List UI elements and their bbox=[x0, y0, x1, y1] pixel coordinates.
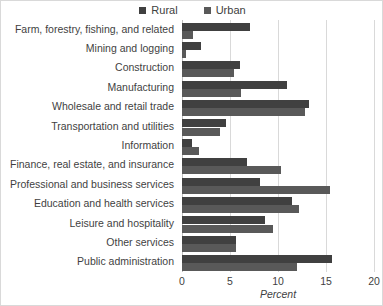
bar-rural[interactable] bbox=[182, 197, 292, 205]
legend-swatch-icon bbox=[204, 7, 211, 14]
category-label: Mining and logging bbox=[86, 43, 174, 54]
x-tick-label: 20 bbox=[368, 275, 380, 287]
category-label: Construction bbox=[115, 62, 174, 73]
x-tick-label: 5 bbox=[227, 275, 233, 287]
bar-urban[interactable] bbox=[182, 205, 299, 213]
bar-urban[interactable] bbox=[182, 69, 234, 77]
chart-legend: RuralUrban bbox=[1, 2, 383, 19]
x-tick-label: 0 bbox=[179, 275, 185, 287]
bar-urban[interactable] bbox=[182, 244, 236, 252]
category-label: Other services bbox=[106, 237, 174, 248]
bar-rural[interactable] bbox=[182, 178, 260, 186]
x-tick-label: 10 bbox=[272, 275, 284, 287]
category-label: Professional and business services bbox=[10, 179, 174, 190]
category-label: Public administration bbox=[77, 256, 174, 267]
bar-series-container bbox=[182, 20, 374, 272]
legend-item-rural[interactable]: Rural bbox=[139, 5, 177, 16]
bar-group bbox=[182, 214, 374, 233]
bar-rural[interactable] bbox=[182, 81, 287, 89]
category-axis-labels: Farm, forestry, fishing, and relatedMini… bbox=[1, 20, 178, 272]
bar-group bbox=[182, 175, 374, 194]
bar-urban[interactable] bbox=[182, 31, 193, 39]
category-label: Education and health services bbox=[34, 198, 174, 209]
bar-rural[interactable] bbox=[182, 119, 226, 127]
bar-urban[interactable] bbox=[182, 225, 273, 233]
bar-urban[interactable] bbox=[182, 186, 330, 194]
bar-group bbox=[182, 59, 374, 78]
category-label: Information bbox=[121, 140, 174, 151]
category-label: Manufacturing bbox=[107, 82, 174, 93]
bar-rural[interactable] bbox=[182, 255, 332, 263]
category-label: Finance, real estate, and insurance bbox=[10, 159, 174, 170]
bar-group bbox=[182, 39, 374, 58]
category-label: Leisure and hospitality bbox=[70, 218, 174, 229]
x-tick-label: 15 bbox=[320, 275, 332, 287]
bar-urban[interactable] bbox=[182, 166, 281, 174]
x-axis-title: Percent bbox=[182, 288, 374, 300]
bar-group bbox=[182, 156, 374, 175]
bar-urban[interactable] bbox=[182, 50, 186, 58]
legend-item-label: Urban bbox=[216, 5, 246, 16]
legend-swatch-icon bbox=[139, 7, 146, 14]
bar-rural[interactable] bbox=[182, 23, 250, 31]
legend-item-urban[interactable]: Urban bbox=[204, 5, 246, 16]
bar-rural[interactable] bbox=[182, 100, 309, 108]
bar-group bbox=[182, 194, 374, 213]
bar-chart: RuralUrban Farm, forestry, fishing, and … bbox=[0, 0, 383, 306]
category-label: Wholesale and retail trade bbox=[52, 101, 174, 112]
bar-rural[interactable] bbox=[182, 216, 265, 224]
bar-urban[interactable] bbox=[182, 89, 241, 97]
category-label: Farm, forestry, fishing, and related bbox=[15, 24, 174, 35]
bar-group bbox=[182, 253, 374, 272]
bar-group bbox=[182, 20, 374, 39]
x-axis-tick-labels: 05101520 bbox=[182, 275, 374, 289]
bar-group bbox=[182, 136, 374, 155]
bar-urban[interactable] bbox=[182, 108, 305, 116]
bar-rural[interactable] bbox=[182, 42, 201, 50]
bar-rural[interactable] bbox=[182, 139, 192, 147]
bar-urban[interactable] bbox=[182, 147, 199, 155]
bar-rural[interactable] bbox=[182, 61, 240, 69]
bar-group bbox=[182, 233, 374, 252]
bar-group bbox=[182, 117, 374, 136]
bar-rural[interactable] bbox=[182, 158, 247, 166]
bar-group bbox=[182, 98, 374, 117]
bar-group bbox=[182, 78, 374, 97]
plot-area bbox=[182, 20, 374, 272]
category-label: Transportation and utilities bbox=[51, 121, 174, 132]
bar-urban[interactable] bbox=[182, 128, 220, 136]
legend-item-label: Rural bbox=[151, 5, 177, 16]
gridline bbox=[374, 20, 375, 272]
bar-urban[interactable] bbox=[182, 263, 297, 271]
bar-rural[interactable] bbox=[182, 236, 236, 244]
